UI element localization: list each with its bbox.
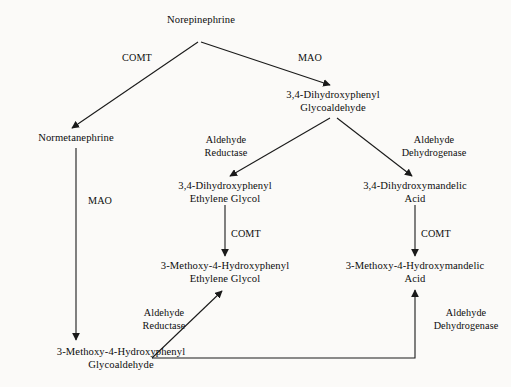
node-label-line-2: Acid [363,193,467,206]
enzyme-label: MAO [88,195,112,208]
enzyme-label-mao-left: MAO [88,195,112,208]
node-dhpg-aldehyde: 3,4-Dihydroxyphenyl Glycoaldehyde [286,89,379,114]
enzyme-label: COMT [231,228,261,241]
node-mhpg-ethylene-glycol: 3-Methoxy-4-Hydroxyphenyl Ethylene Glyco… [161,260,289,285]
node-label: Norepinephrine [167,14,235,27]
enzyme-label-comt-top-left: COMT [122,52,152,65]
node-dihydroxymandelic-acid: 3,4-Dihydroxymandelic Acid [363,180,467,205]
enzyme-label-line-2: Dehydrogenase [434,320,499,333]
enzyme-label-aldehyde-reductase-upper: Aldehyde Reductase [205,134,248,159]
node-label-line-1: 3-Methoxy-4-Hydroxymandelic [346,260,485,273]
enzyme-label-aldehyde-reductase-lower: Aldehyde Reductase [143,307,186,332]
node-label-line-1: 3,4-Dihydroxyphenyl [178,180,271,193]
enzyme-label-line-2: Reductase [205,147,248,160]
enzyme-label-comt-mid-left: COMT [231,228,261,241]
enzyme-label-line-1: Aldehyde [143,307,186,320]
node-label-line-2: Acid [346,273,485,286]
enzyme-label-aldehyde-dehydrogenase-lower: Aldehyde Dehydrogenase [434,307,499,332]
enzyme-label: COMT [122,52,152,65]
enzyme-label-line-1: Aldehyde [402,134,467,147]
node-label: Normetanephrine [38,132,114,145]
node-mhpg-aldehyde: 3-Methoxy-4-Hydroxyphenyl Glycoaldehyde [57,346,185,371]
enzyme-label-comt-mid-right: COMT [421,228,451,241]
node-label-line-1: 3-Methoxy-4-Hydroxyphenyl [161,260,289,273]
node-label-line-1: 3,4-Dihydroxymandelic [363,180,467,193]
node-label-line-2: Glycoaldehyde [286,102,379,115]
enzyme-label-line-2: Reductase [143,320,186,333]
enzyme-label-line-2: Dehydrogenase [402,147,467,160]
node-methoxy-hydroxymandelic-acid: 3-Methoxy-4-Hydroxymandelic Acid [346,260,485,285]
node-dhpg-ethylene-glycol: 3,4-Dihydroxyphenyl Ethylene Glycol [178,180,271,205]
node-label-line-2: Glycoaldehyde [57,359,185,372]
node-label-line-2: Ethylene Glycol [178,193,271,206]
enzyme-label: COMT [421,228,451,241]
node-normetanephrine: Normetanephrine [38,132,114,145]
node-label-line-1: 3,4-Dihydroxyphenyl [286,89,379,102]
node-label-line-2: Ethylene Glycol [161,273,289,286]
enzyme-label: MAO [298,52,322,65]
pathway-diagram: Norepinephrine Normetanephrine 3,4-Dihyd… [0,0,511,387]
enzyme-label-line-1: Aldehyde [434,307,499,320]
edge-mhpg-aldehyde-to-vma [152,290,415,358]
node-label-line-1: 3-Methoxy-4-Hydroxyphenyl [57,346,185,359]
enzyme-label-aldehyde-dehydrogenase-upper: Aldehyde Dehydrogenase [402,134,467,159]
enzyme-label-mao-top-right: MAO [298,52,322,65]
enzyme-label-line-1: Aldehyde [205,134,248,147]
node-norepinephrine: Norepinephrine [167,14,235,27]
